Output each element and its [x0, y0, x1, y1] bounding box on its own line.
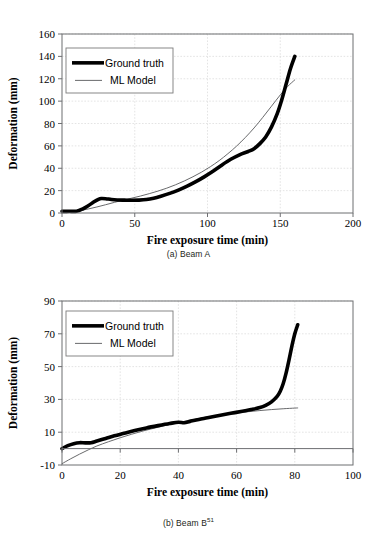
- figure-caption-a-text: (a) Beam A: [167, 249, 211, 259]
- legend-label-ground-truth-a: Ground truth: [105, 57, 164, 69]
- y-tick-label-a-6: 120: [39, 73, 56, 85]
- x-tick-label-b-1: 20: [115, 469, 127, 481]
- x-tick-label-a-2: 100: [199, 217, 216, 229]
- figure-beam-b: -101030507090020406080100Fire exposure t…: [0, 270, 377, 539]
- y-tick-label-b-4: 70: [44, 328, 56, 340]
- x-axis-title-a: Fire exposure time (min): [147, 234, 268, 247]
- y-tick-label-a-3: 60: [44, 140, 56, 152]
- y-tick-label-a-4: 80: [44, 118, 56, 130]
- x-tick-label-b-4: 80: [289, 469, 301, 481]
- y-tick-label-b-1: 10: [44, 426, 56, 438]
- x-axis-title-b: Fire exposure time (min): [147, 486, 268, 499]
- legend-label-ml-model-b: ML Model: [110, 337, 156, 349]
- y-tick-label-b-0: -10: [40, 459, 55, 471]
- x-tick-label-b-3: 60: [231, 469, 243, 481]
- y-axis-title-b: Deformation (mm): [7, 337, 20, 429]
- x-tick-label-b-0: 0: [59, 469, 65, 481]
- x-tick-label-b-2: 40: [173, 469, 185, 481]
- x-tick-label-b-5: 100: [345, 469, 362, 481]
- x-tick-label-a-0: 0: [59, 217, 65, 229]
- x-tick-label-a-4: 200: [345, 217, 362, 229]
- y-tick-label-a-7: 140: [39, 50, 56, 62]
- figure-caption-b: (b) Beam B51: [0, 518, 377, 528]
- chart-beam-a-svg: 020406080100120140160050100150200Fire ex…: [0, 0, 377, 248]
- chart-beam-b: -101030507090020406080100Fire exposure t…: [0, 270, 377, 515]
- y-tick-label-a-8: 160: [39, 28, 56, 40]
- y-tick-label-b-5: 90: [44, 295, 56, 307]
- y-tick-label-a-0: 0: [50, 207, 56, 219]
- y-axis-title-a: Deformation (mm): [7, 77, 20, 169]
- y-tick-label-b-3: 50: [44, 361, 56, 373]
- chart-beam-a: 020406080100120140160050100150200Fire ex…: [0, 0, 377, 248]
- legend-label-ground-truth-b: Ground truth: [105, 320, 164, 332]
- x-tick-label-a-1: 50: [129, 217, 141, 229]
- figure-beam-a: 020406080100120140160050100150200Fire ex…: [0, 0, 377, 270]
- figure-caption-a: (a) Beam A: [0, 249, 377, 259]
- legend-label-ml-model-a: ML Model: [110, 74, 156, 86]
- y-tick-label-a-1: 20: [44, 185, 56, 197]
- figure-caption-b-superscript: 51: [207, 516, 214, 523]
- chart-beam-b-svg: -101030507090020406080100Fire exposure t…: [0, 270, 377, 515]
- x-tick-label-a-3: 150: [272, 217, 289, 229]
- y-tick-label-a-2: 40: [44, 162, 56, 174]
- figure-caption-b-text: (b) Beam B: [163, 518, 207, 528]
- y-tick-label-a-5: 100: [39, 95, 56, 107]
- y-tick-label-b-2: 30: [44, 393, 56, 405]
